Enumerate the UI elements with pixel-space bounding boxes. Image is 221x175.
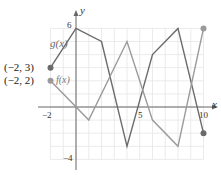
point-label-f: (−2, 2) [4,74,34,86]
tick-label-6: 6 [67,20,72,30]
endpoint-dot [201,130,207,136]
endpoint-dot [201,25,207,31]
tick-label-neg2: −2 [42,110,52,120]
tick-label-10: 10 [199,110,208,120]
f-function-label: f(x) [56,74,70,85]
endpoint-dot [48,65,54,71]
tick-label-5: 5 [138,110,143,120]
g-function-label: g(x) [50,37,68,49]
point-label-g: (−2, 3) [4,61,34,73]
graph [0,0,221,175]
grid [51,28,204,159]
y-axis-label: y [80,4,85,16]
x-axis-label: x [212,98,217,110]
y-axis-arrow-icon [74,10,79,16]
tick-label-neg4: −4 [63,153,73,163]
endpoint-dot [48,78,54,84]
